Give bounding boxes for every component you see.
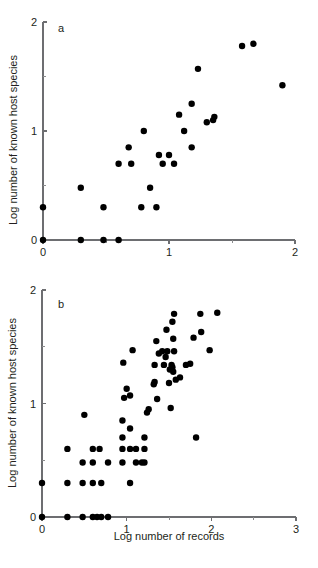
x-tick-label: 0 bbox=[40, 246, 46, 258]
data-point bbox=[162, 354, 168, 360]
data-point bbox=[151, 379, 157, 385]
data-point bbox=[206, 347, 212, 353]
y-tick-label: 1 bbox=[30, 398, 36, 410]
data-point bbox=[79, 459, 85, 465]
data-point bbox=[129, 347, 135, 353]
tick-label-group-a: 012012 bbox=[31, 16, 298, 258]
data-point bbox=[171, 348, 177, 354]
data-point bbox=[90, 480, 96, 486]
scatter-plot-a: 012012 a Log number of known host specie… bbox=[0, 0, 318, 278]
data-point bbox=[154, 396, 160, 402]
data-point bbox=[100, 204, 106, 210]
data-point bbox=[90, 446, 96, 452]
data-point bbox=[167, 405, 173, 411]
panel-label-a: a bbox=[58, 22, 65, 34]
x-axis-title-b: Log number of records bbox=[114, 530, 225, 542]
data-point bbox=[39, 514, 45, 520]
panel-b: 0123012 b Log number of known host speci… bbox=[0, 278, 318, 568]
data-point bbox=[127, 446, 133, 452]
data-point bbox=[64, 514, 70, 520]
panel-a: 012012 a Log number of known host specie… bbox=[0, 0, 318, 278]
data-point bbox=[141, 446, 147, 452]
tick-label-group-b: 0123012 bbox=[30, 284, 299, 535]
data-point bbox=[239, 43, 245, 49]
data-point bbox=[105, 514, 111, 520]
data-point bbox=[171, 161, 177, 167]
data-point-group-a bbox=[40, 41, 286, 244]
data-point bbox=[193, 434, 199, 440]
y-tick-label: 0 bbox=[30, 511, 36, 523]
data-point bbox=[168, 362, 174, 368]
data-point bbox=[171, 311, 177, 317]
data-point bbox=[188, 144, 194, 150]
data-point bbox=[166, 380, 172, 386]
data-point bbox=[79, 480, 85, 486]
data-point bbox=[156, 152, 162, 158]
data-point bbox=[78, 184, 84, 190]
data-point bbox=[204, 119, 210, 125]
data-point bbox=[164, 348, 170, 354]
data-point bbox=[64, 446, 70, 452]
scatter-plot-b: 0123012 b Log number of known host speci… bbox=[0, 278, 318, 568]
data-point bbox=[105, 459, 111, 465]
figure-container: 012012 a Log number of known host specie… bbox=[0, 0, 318, 568]
data-point bbox=[169, 319, 175, 325]
data-point bbox=[190, 334, 196, 340]
data-point bbox=[279, 82, 285, 88]
data-point bbox=[188, 101, 194, 107]
data-point bbox=[64, 480, 70, 486]
data-point bbox=[214, 310, 220, 316]
data-point bbox=[181, 128, 187, 134]
data-point bbox=[125, 144, 131, 150]
data-point bbox=[100, 237, 106, 243]
data-point bbox=[115, 237, 121, 243]
data-point bbox=[98, 514, 104, 520]
data-point bbox=[119, 459, 125, 465]
data-point bbox=[211, 114, 217, 120]
data-point bbox=[138, 204, 144, 210]
data-point bbox=[115, 161, 121, 167]
data-point bbox=[141, 128, 147, 134]
data-point bbox=[119, 417, 125, 423]
data-point bbox=[161, 362, 167, 368]
data-point bbox=[40, 237, 46, 243]
data-point bbox=[127, 392, 133, 398]
data-point bbox=[127, 425, 133, 431]
data-point bbox=[78, 237, 84, 243]
data-point bbox=[151, 362, 157, 368]
tick-group-a bbox=[43, 22, 295, 244]
data-point bbox=[96, 446, 102, 452]
data-point bbox=[198, 329, 204, 335]
y-tick-label: 1 bbox=[31, 125, 37, 137]
data-point bbox=[195, 66, 201, 72]
y-axis-title-a: Log number of known host species bbox=[7, 55, 19, 225]
data-point bbox=[133, 459, 139, 465]
data-point bbox=[98, 480, 104, 486]
y-tick-label: 2 bbox=[31, 16, 37, 28]
data-point bbox=[81, 412, 87, 418]
data-point bbox=[250, 41, 256, 47]
x-tick-label: 2 bbox=[292, 246, 298, 258]
data-point bbox=[187, 361, 193, 367]
data-point bbox=[163, 327, 169, 333]
data-point bbox=[145, 406, 151, 412]
data-point bbox=[133, 446, 139, 452]
data-point bbox=[160, 161, 166, 167]
data-point bbox=[90, 459, 96, 465]
data-point bbox=[119, 434, 125, 440]
data-point-group-b bbox=[39, 310, 221, 521]
x-tick-label: 0 bbox=[39, 523, 45, 535]
data-point bbox=[40, 204, 46, 210]
data-point bbox=[128, 161, 134, 167]
y-tick-label: 0 bbox=[31, 234, 37, 246]
data-point bbox=[123, 386, 129, 392]
data-point bbox=[119, 446, 125, 452]
data-point bbox=[127, 480, 133, 486]
data-point bbox=[121, 395, 127, 401]
y-tick-label: 2 bbox=[30, 284, 36, 296]
data-point bbox=[153, 338, 159, 344]
data-point bbox=[166, 152, 172, 158]
panel-label-b: b bbox=[58, 298, 64, 310]
data-point bbox=[176, 111, 182, 117]
x-tick-label: 3 bbox=[293, 523, 299, 535]
